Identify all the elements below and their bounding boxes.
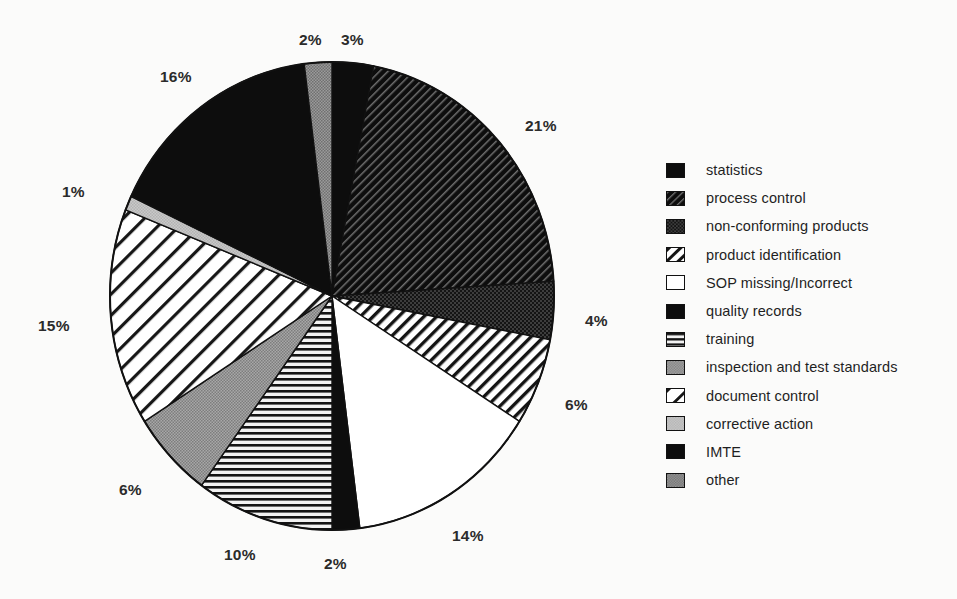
legend-swatch-icon xyxy=(666,247,685,262)
legend-swatch-icon xyxy=(666,332,685,347)
legend-item[interactable]: non-conforming products xyxy=(666,212,956,240)
legend-swatch-icon xyxy=(666,275,685,290)
pie-chart-area: 3%21%4%6%14%2%10%6%15%1%16%2% xyxy=(0,0,660,599)
legend-item[interactable]: IMTE xyxy=(666,438,956,466)
pie-percent-label: 14% xyxy=(452,527,484,545)
pie-percent-label: 1% xyxy=(62,183,85,201)
legend-item-label: IMTE xyxy=(706,444,741,460)
legend-swatch-icon xyxy=(666,304,685,319)
legend-item[interactable]: SOP missing/Incorrect xyxy=(666,269,956,297)
legend-item[interactable]: product identification xyxy=(666,241,956,269)
legend-swatch-icon xyxy=(666,191,685,206)
pie-percent-label: 21% xyxy=(525,117,557,135)
legend-swatch-icon xyxy=(666,360,685,375)
legend-swatch-icon xyxy=(666,444,685,459)
pie-percent-label: 6% xyxy=(119,481,142,499)
legend-item-label: non-conforming products xyxy=(706,218,869,234)
pie-percent-label: 15% xyxy=(38,317,70,335)
legend-item-label: document control xyxy=(706,388,819,404)
legend-item[interactable]: statistics xyxy=(666,156,956,184)
legend-item-label: product identification xyxy=(706,247,841,263)
legend-item[interactable]: quality records xyxy=(666,297,956,325)
legend-item[interactable]: training xyxy=(666,325,956,353)
pie-percent-label: 4% xyxy=(585,312,608,330)
legend-item-label: quality records xyxy=(706,303,802,319)
legend-item[interactable]: inspection and test standards xyxy=(666,353,956,381)
legend-swatch-icon xyxy=(666,388,685,403)
pie-percent-label: 6% xyxy=(565,396,588,414)
chart-legend: statisticsprocess controlnon-conforming … xyxy=(666,156,956,494)
legend-item[interactable]: other xyxy=(666,466,956,494)
pie-percent-label: 3% xyxy=(341,31,364,49)
pie-chart-svg xyxy=(0,0,660,599)
legend-swatch-icon xyxy=(666,163,685,178)
legend-item-label: inspection and test standards xyxy=(706,359,898,375)
legend-item-label: SOP missing/Incorrect xyxy=(706,275,852,291)
legend-item-label: corrective action xyxy=(706,416,813,432)
legend-item[interactable]: corrective action xyxy=(666,410,956,438)
legend-item-label: other xyxy=(706,472,740,488)
pie-percent-label: 2% xyxy=(299,31,322,49)
legend-swatch-icon xyxy=(666,473,685,488)
pie-slice-group xyxy=(110,62,554,530)
legend-item-label: training xyxy=(706,331,754,347)
pie-percent-label: 10% xyxy=(224,546,256,564)
legend-item[interactable]: process control xyxy=(666,184,956,212)
pie-percent-label: 2% xyxy=(324,555,347,573)
legend-item-label: process control xyxy=(706,190,806,206)
legend-swatch-icon xyxy=(666,219,685,234)
legend-swatch-icon xyxy=(666,416,685,431)
chart-page: 3%21%4%6%14%2%10%6%15%1%16%2% statistics… xyxy=(0,0,957,599)
pie-percent-label: 16% xyxy=(160,68,192,86)
legend-item-label: statistics xyxy=(706,162,763,178)
legend-item[interactable]: document control xyxy=(666,382,956,410)
